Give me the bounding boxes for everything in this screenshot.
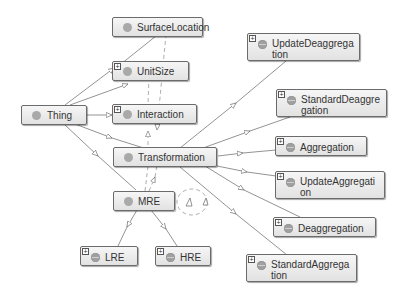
dashed-edge-unitsize-interaction	[148, 77, 149, 104]
node-transformation[interactable]: Transformation	[113, 147, 217, 167]
self-loop-arrow-1	[186, 198, 192, 206]
node-label: Deaggregation	[298, 223, 364, 234]
node-aggregation[interactable]: + Aggregation	[275, 136, 367, 156]
class-icon	[287, 96, 296, 105]
expand-icon[interactable]: +	[275, 219, 282, 226]
expand-icon[interactable]: +	[277, 138, 284, 145]
node-standarddeaggregation[interactable]: + StandardDeaggre gation	[276, 89, 387, 117]
expand-icon[interactable]: +	[249, 35, 256, 42]
class-icon	[124, 197, 133, 206]
class-icon	[166, 253, 175, 262]
node-interaction[interactable]: + Interaction	[112, 104, 197, 124]
expand-icon[interactable]: +	[278, 91, 285, 98]
class-icon	[258, 40, 267, 49]
node-label: UpdateDeaggrega tion	[272, 38, 354, 60]
node-label: SurfaceLocation	[137, 22, 209, 33]
node-label: Thing	[47, 110, 72, 121]
class-icon	[123, 110, 132, 119]
node-label: MRE	[138, 196, 160, 207]
class-icon	[32, 111, 41, 120]
class-icon	[124, 153, 133, 162]
self-loop-arrow-2	[203, 198, 208, 205]
node-standardaggregation[interactable]: + StandardAggrega tion	[246, 254, 357, 282]
node-label: LRE	[105, 252, 124, 263]
edge-thing-mre	[64, 124, 98, 156]
edge-updateaggregation-cont	[247, 172, 276, 176]
class-icon	[123, 23, 132, 32]
node-label: UpdateAggregati on	[300, 176, 375, 198]
class-icon	[91, 253, 100, 262]
ontology-graph-canvas: SurfaceLocation + UnitSize Thing + Inter…	[0, 0, 409, 294]
expand-icon[interactable]: +	[82, 248, 89, 255]
node-updateaggregation[interactable]: + UpdateAggregati on	[275, 171, 385, 199]
edge-aggregation-cont	[243, 150, 276, 153]
node-label: Aggregation	[300, 142, 354, 153]
expand-icon[interactable]: +	[114, 106, 121, 113]
node-label: HRE	[180, 252, 201, 263]
edge-standarddeaggregation-cont	[250, 117, 290, 131]
expand-icon[interactable]: +	[157, 248, 164, 255]
dashed-edge-mre-transformation	[145, 166, 148, 191]
dashed-edge-mre-transformation-2	[149, 177, 155, 191]
expand-icon[interactable]: +	[114, 63, 121, 70]
node-lre[interactable]: + LRE	[80, 246, 138, 266]
edge-transformation-deaggregation	[205, 166, 244, 190]
edge-lre-cont	[118, 227, 127, 246]
edge-mre-hre	[151, 210, 166, 229]
edge-thing-transformation	[75, 124, 112, 138]
node-deaggregation[interactable]: + Deaggregation	[273, 217, 376, 237]
node-unitsize[interactable]: + UnitSize	[112, 61, 189, 81]
class-icon	[257, 261, 266, 270]
node-thing[interactable]: Thing	[21, 105, 87, 125]
edge-thing-unitsize	[65, 68, 114, 105]
edge-transformation-aggregation	[218, 153, 243, 156]
edge-mre-lre	[127, 210, 137, 227]
edge-transformation-updateaggregation	[212, 165, 247, 172]
node-label: StandardDeaggre gation	[301, 94, 380, 116]
node-updatedeaggregation[interactable]: + UpdateDeaggrega tion	[247, 33, 360, 61]
node-hre[interactable]: + HRE	[155, 246, 211, 266]
node-label: StandardAggrega tion	[271, 259, 349, 281]
node-label: Transformation	[138, 152, 205, 163]
expand-icon[interactable]: +	[277, 173, 284, 180]
edge-surfacelocation-link	[121, 36, 156, 64]
edge-hre-cont	[166, 229, 177, 246]
class-icon	[123, 67, 132, 76]
node-label: UnitSize	[137, 66, 174, 77]
class-icon	[284, 224, 293, 233]
class-icon	[286, 178, 295, 187]
node-label: Interaction	[137, 109, 184, 120]
edge-transformation-standardaggregation	[180, 167, 236, 214]
node-mre[interactable]: MRE	[113, 191, 175, 211]
class-icon	[286, 143, 295, 152]
expand-icon[interactable]: +	[248, 256, 255, 263]
dashed-self-loop-mre	[177, 189, 207, 215]
node-surfacelocation[interactable]: SurfaceLocation	[112, 17, 203, 37]
